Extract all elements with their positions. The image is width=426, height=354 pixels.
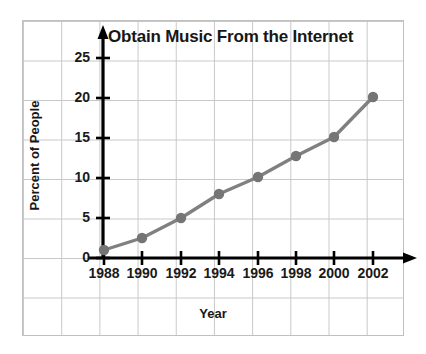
y-tick-label-20: 20 <box>60 89 90 105</box>
x-axis <box>88 253 417 264</box>
chart-figure: Obtain Music From the Internet Percent o… <box>0 0 426 354</box>
y-tick-label-15: 15 <box>60 129 90 145</box>
x-axis-title: Year <box>163 306 263 321</box>
chart-title: Obtain Music From the Internet <box>108 27 408 47</box>
y-tick-label-0: 0 <box>60 249 90 265</box>
x-tick-label-2002: 2002 <box>350 265 396 281</box>
y-tick-label-25: 25 <box>60 49 90 65</box>
data-point-markers <box>99 92 378 255</box>
y-tick-label-5: 5 <box>60 209 90 225</box>
y-axis-title: Percent of People <box>27 76 42 236</box>
data-line-series-1 <box>104 97 373 250</box>
y-axis <box>98 25 109 258</box>
y-tick-label-10: 10 <box>60 169 90 185</box>
